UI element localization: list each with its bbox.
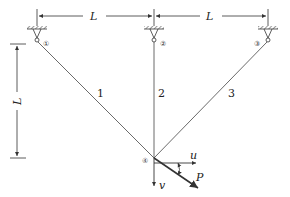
angle-arc (178, 163, 180, 175)
top-dimension (37, 9, 268, 26)
dimension-label-right: L (205, 10, 213, 23)
support-node-3 (258, 26, 278, 42)
node-label-2: ② (160, 40, 166, 48)
member-3 (154, 42, 267, 158)
truss-diagram: L L L ① ② ③ ④ 1 2 3 (0, 0, 290, 197)
member-label-1: 1 (97, 87, 104, 100)
truss-members (38, 42, 267, 158)
load-label: P (195, 171, 204, 184)
member-1 (38, 42, 154, 158)
node-label-3: ③ (254, 40, 260, 48)
member-label-3: 3 (228, 87, 235, 100)
u-label: u (190, 149, 197, 162)
dimension-label-left: L (89, 10, 97, 23)
v-label: v (159, 179, 166, 192)
member-label-2: 2 (158, 87, 165, 100)
node-label-4: ④ (142, 157, 148, 165)
node-label-1: ① (43, 40, 49, 48)
dimension-label-vertical: L (11, 98, 24, 106)
